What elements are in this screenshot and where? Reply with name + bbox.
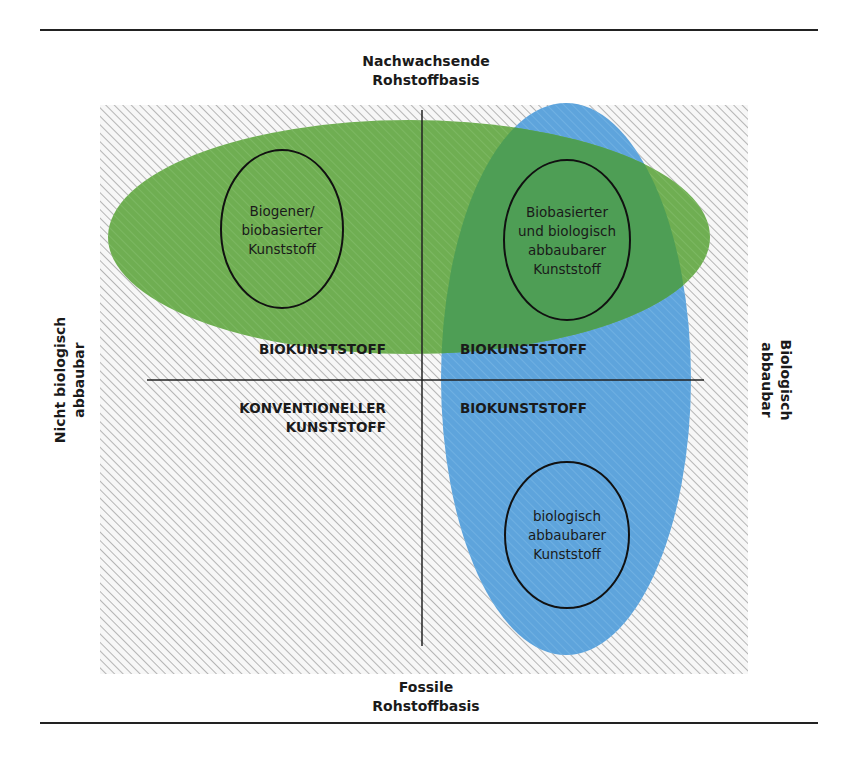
inner-bottom-line1: biologisch [505, 507, 629, 526]
inner-right-line2: und biologisch [500, 222, 634, 241]
inner-label-biodegradable: biologisch abbaubarer Kunststoff [505, 507, 629, 564]
quadrant-label-bottom-left: KONVENTIONELLER KUNSTSTOFF [180, 399, 386, 437]
inner-label-biobased-biodegradable: Biobasierter und biologisch abbaubarer K… [500, 203, 634, 279]
axis-bottom-line1: Fossile [326, 678, 526, 697]
inner-right-line1: Biobasierter [500, 203, 634, 222]
bottom-rule [40, 722, 818, 724]
axis-label-right: Biologisch abbaubar [757, 320, 795, 440]
quadrant-bl-line2: KUNSTSTOFF [180, 418, 386, 437]
axis-right-line2: abbaubar [757, 320, 776, 440]
quadrant-label-top-right: BIOKUNSTSTOFF [460, 340, 587, 359]
inner-bottom-line3: Kunststoff [505, 545, 629, 564]
quadrant-label-bottom-right: BIOKUNSTSTOFF [460, 399, 587, 418]
inner-bottom-line2: abbaubarer [505, 526, 629, 545]
inner-label-biobased: Biogener/ biobasierter Kunststoff [222, 202, 342, 259]
axis-right-line1: Biologisch [776, 320, 795, 440]
axis-left-line1: Nicht biologisch [51, 300, 70, 460]
axis-top-line1: Nachwachsende [326, 52, 526, 71]
axis-left-line2: abbaubar [70, 300, 89, 460]
axis-label-left: Nicht biologisch abbaubar [51, 300, 89, 460]
axis-top-line2: Rohstoffbasis [326, 71, 526, 90]
quadrant-label-top-left: BIOKUNSTSTOFF [180, 340, 386, 359]
axis-bottom-line2: Rohstoffbasis [326, 697, 526, 716]
inner-right-line3: abbaubarer [500, 241, 634, 260]
inner-right-line4: Kunststoff [500, 260, 634, 279]
diagram-canvas [0, 0, 852, 757]
quadrant-bl-line1: KONVENTIONELLER [180, 399, 386, 418]
inner-left-line3: Kunststoff [222, 240, 342, 259]
inner-left-line1: Biogener/ [222, 202, 342, 221]
inner-left-line2: biobasierter [222, 221, 342, 240]
axis-label-bottom: Fossile Rohstoffbasis [326, 678, 526, 716]
axis-label-top: Nachwachsende Rohstoffbasis [326, 52, 526, 90]
